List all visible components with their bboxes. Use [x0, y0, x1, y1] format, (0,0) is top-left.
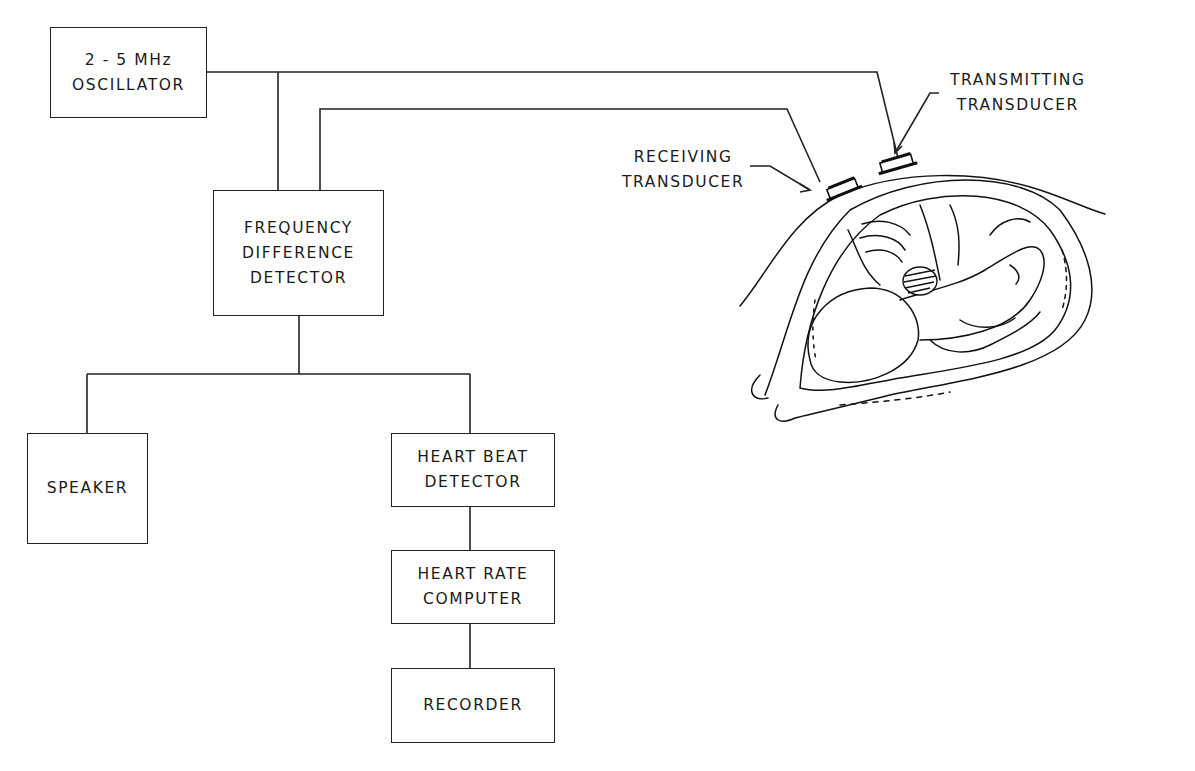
recorder-block: RECORDER — [391, 668, 555, 743]
speaker-label: SPEAKER — [47, 476, 129, 501]
fetus-illustration — [740, 176, 1105, 422]
transmitting-label-line-1: TRANSMITTING — [950, 68, 1086, 93]
fdd-line-3: DETECTOR — [250, 266, 347, 291]
heart-rate-computer-block: HEART RATE COMPUTER — [391, 550, 555, 624]
oscillator-line-2: OSCILLATOR — [72, 73, 185, 98]
wire-receiver-to-fdd — [320, 109, 820, 190]
hbd-line-2: DETECTOR — [424, 470, 521, 495]
recorder-label: RECORDER — [423, 693, 523, 718]
heart-beat-detector-block: HEART BEAT DETECTOR — [391, 433, 555, 507]
hbd-line-1: HEART BEAT — [417, 445, 528, 470]
receiving-leader-arrow — [750, 166, 810, 190]
frequency-difference-detector-block: FREQUENCY DIFFERENCE DETECTOR — [213, 190, 384, 316]
fetal-heart-icon — [903, 267, 937, 295]
oscillator-line-1: 2 - 5 MHz — [85, 48, 173, 73]
transmitting-leader-arrow — [895, 93, 939, 153]
speaker-block: SPEAKER — [27, 433, 148, 544]
receiving-label-line-1: RECEIVING — [622, 145, 744, 170]
receiving-transducer-label: RECEIVING TRANSDUCER — [622, 145, 744, 195]
wire-oscillator-to-transmitter — [206, 72, 898, 158]
transmitting-transducer-icon — [876, 152, 917, 174]
hrc-line-2: COMPUTER — [423, 587, 523, 612]
transmitting-label-line-2: TRANSDUCER — [950, 93, 1086, 118]
transmitting-transducer-label: TRANSMITTING TRANSDUCER — [950, 68, 1086, 118]
receiving-label-line-2: TRANSDUCER — [622, 170, 744, 195]
oscillator-block: 2 - 5 MHz OSCILLATOR — [50, 27, 207, 118]
fdd-line-2: DIFFERENCE — [242, 241, 355, 266]
hrc-line-1: HEART RATE — [418, 562, 529, 587]
fdd-line-1: FREQUENCY — [244, 216, 353, 241]
